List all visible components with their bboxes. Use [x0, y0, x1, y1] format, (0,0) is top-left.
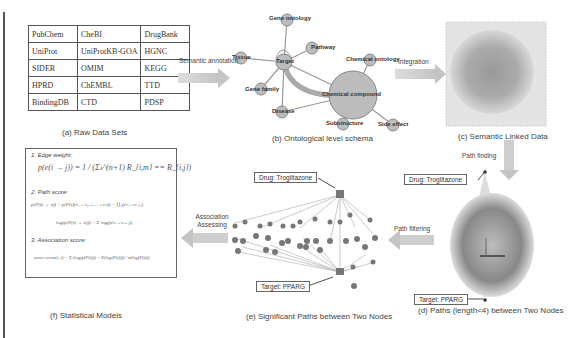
- node-side-effect: Side effect: [378, 121, 408, 127]
- node-chemical-ontology: Chemical ontology: [346, 56, 400, 62]
- arrow-integration: [395, 64, 446, 84]
- ontology-nodes: [235, 14, 399, 131]
- drug-label-d: Drug: Troglitazone: [404, 174, 467, 185]
- linked-data-cloud: [446, 22, 546, 126]
- label-semantic-annotation: Semantic annotation: [179, 57, 238, 64]
- node-gene-family: Gene family: [245, 86, 279, 92]
- label-integration: Integration: [398, 58, 429, 65]
- arrow-path-finding: [499, 140, 519, 180]
- target-label-e: Target: PPARG: [256, 281, 310, 292]
- arrow-association-assessing: [181, 228, 228, 248]
- arrow-semantic-annotation: [178, 68, 230, 88]
- caption-ontology-schema: (b) Ontological level schema: [272, 134, 373, 143]
- node-pathway: Pathway: [311, 44, 335, 50]
- arrow-path-filtering: [388, 230, 434, 250]
- caption-statistical-models: (f) Statistical Models: [50, 311, 122, 320]
- path-score-formula: p(P(t) → x)) = p(P(t)(v₁→v₂→…→vₙ)) = ∏ p…: [31, 201, 143, 207]
- edge-weight-formula: p(e(i → j)) = 1 / (Σₖ^(n+1) R_{i,m} == R…: [38, 163, 191, 172]
- label-association-assessing: Association Assessing: [184, 213, 240, 229]
- edge-weight-label: 1. Edge weight:: [31, 152, 72, 158]
- label-path-filtering: Path filtering: [394, 225, 430, 232]
- node-chemical-compound: Chemical compound: [322, 91, 381, 97]
- node-gene-ontology: Gene ontology: [269, 15, 311, 21]
- significant-paths-nodes: [232, 190, 378, 289]
- label-path-finding: Path finding: [462, 152, 496, 159]
- drug-label-e: Drug: Troglitazone: [254, 172, 317, 183]
- statistical-models-box: 1. Edge weight: p(e(i → j)) = 1 / (Σₖ^(n…: [25, 148, 177, 278]
- drug-pointer-e: [318, 178, 335, 188]
- association-score-label: 3. Association score:: [31, 237, 86, 243]
- caption-semantic-linked-data: (c) Semantic Linked Data: [458, 132, 548, 141]
- caption-significant-paths: (e) Significant Paths between Two Nodes: [246, 312, 392, 321]
- association-score-formula: assoc score(s, t) = Σ (log(p(P(t))) − E(…: [34, 255, 150, 260]
- caption-paths: (d) Paths (length<4) between Two Nodes: [418, 306, 564, 315]
- log-path-score-formula: log(p(P(t) → x))) = Σ log(p(vᵢ→vᵢ₊₁)): [56, 219, 132, 225]
- node-target: Target: [276, 58, 294, 64]
- path-score-label: 2. Path score:: [31, 189, 68, 195]
- target-label-d: Target: PPARG: [414, 294, 468, 305]
- paths-diagram: [450, 170, 534, 302]
- node-substructure: Substructure: [326, 120, 363, 126]
- node-disease: Disease: [272, 108, 295, 114]
